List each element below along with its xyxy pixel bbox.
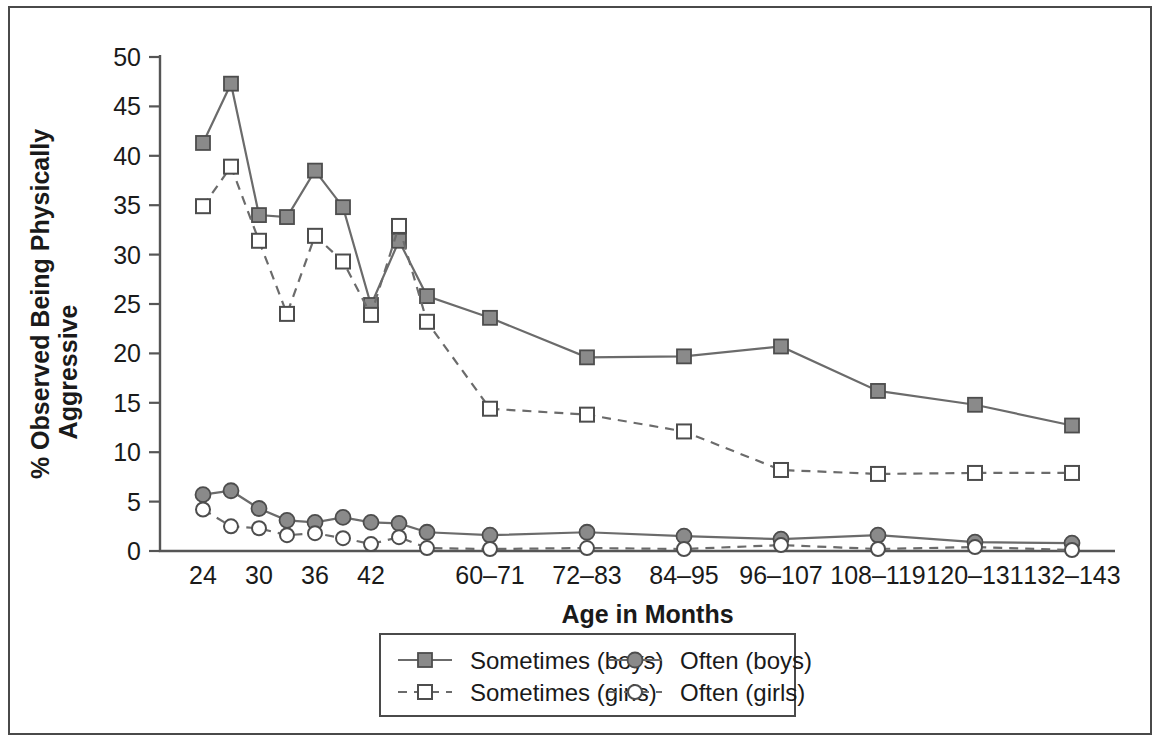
x-tick-label: 84–95: [649, 561, 719, 589]
y-tick-label: 0: [127, 537, 141, 565]
data-point-marker: [1065, 466, 1079, 480]
data-point-marker: [420, 541, 434, 555]
data-point-marker: [252, 501, 267, 516]
series-often-boys: [196, 483, 1080, 550]
data-point-marker: [418, 685, 432, 699]
y-tick-label: 45: [113, 92, 141, 120]
series-line: [203, 167, 1072, 474]
series-line: [203, 84, 1072, 426]
x-tick-label: 60–71: [455, 561, 525, 589]
data-point-marker: [392, 516, 407, 531]
series-line: [203, 491, 1072, 543]
data-point-marker: [308, 164, 322, 178]
data-point-marker: [392, 530, 406, 544]
data-point-marker: [871, 542, 885, 556]
y-tick-label: 15: [113, 389, 141, 417]
data-point-marker: [420, 289, 434, 303]
data-point-marker: [580, 350, 594, 364]
data-point-marker: [252, 521, 266, 535]
x-tick-label: 96–107: [739, 561, 822, 589]
x-tick-label: 132–143: [1023, 561, 1120, 589]
data-point-marker: [224, 483, 239, 498]
series-often-girls: [196, 503, 1079, 558]
data-point-marker: [280, 528, 294, 542]
data-point-marker: [871, 467, 885, 481]
data-point-marker: [871, 528, 886, 543]
series-sometimes-boys: [196, 77, 1079, 433]
data-point-marker: [364, 308, 378, 322]
data-point-marker: [336, 255, 350, 269]
y-tick-label: 10: [113, 438, 141, 466]
data-point-marker: [308, 526, 322, 540]
data-point-marker: [628, 653, 643, 668]
data-point-marker: [196, 503, 210, 517]
y-axis-title-line2: Aggressive: [54, 305, 82, 440]
y-tick-label: 35: [113, 191, 141, 219]
data-point-marker: [871, 384, 885, 398]
data-point-marker: [308, 229, 322, 243]
y-tick-label: 20: [113, 339, 141, 367]
x-tick-label: 24: [189, 561, 217, 589]
data-point-marker: [418, 653, 432, 667]
data-point-marker: [336, 510, 351, 525]
data-point-marker: [483, 311, 497, 325]
data-point-marker: [483, 528, 498, 543]
data-point-marker: [677, 424, 691, 438]
data-point-marker: [677, 542, 691, 556]
data-point-marker: [628, 685, 642, 699]
x-axis-title: Age in Months: [561, 600, 733, 628]
x-tick-label: 108–119: [830, 561, 925, 589]
x-tick-label: 72–83: [552, 561, 622, 589]
data-point-marker: [336, 531, 350, 545]
data-point-marker: [196, 136, 210, 150]
data-point-marker: [196, 199, 210, 213]
chart-canvas: 05101520253035404550 2430364260–7172–838…: [0, 0, 1160, 745]
data-point-marker: [280, 513, 295, 528]
legend-label: Often (girls): [680, 679, 805, 706]
legend-label: Often (boys): [680, 647, 812, 674]
data-point-marker: [196, 487, 211, 502]
plot-area: 05101520253035404550 2430364260–7172–838…: [0, 0, 1160, 745]
x-tick-label: 36: [301, 561, 329, 589]
data-point-marker: [420, 315, 434, 329]
y-tick-label: 30: [113, 241, 141, 269]
data-point-marker: [774, 538, 788, 552]
y-axis-ticks: 05101520253035404550: [113, 43, 160, 565]
y-tick-label: 5: [127, 488, 141, 516]
data-point-marker: [968, 466, 982, 480]
data-point-marker: [483, 542, 497, 556]
data-point-marker: [364, 515, 379, 530]
x-tick-label: 30: [245, 561, 273, 589]
data-point-marker: [1065, 419, 1079, 433]
data-point-marker: [420, 525, 435, 540]
series-sometimes-girls: [196, 160, 1079, 481]
data-point-marker: [580, 525, 595, 540]
data-point-marker: [392, 219, 406, 233]
data-point-marker: [336, 200, 350, 214]
data-point-marker: [252, 208, 266, 222]
data-point-marker: [224, 160, 238, 174]
data-point-marker: [774, 339, 788, 353]
chart-figure: 05101520253035404550 2430364260–7172–838…: [0, 0, 1160, 745]
data-point-marker: [280, 210, 294, 224]
y-tick-label: 40: [113, 142, 141, 170]
data-point-marker: [224, 519, 238, 533]
data-series: [196, 77, 1080, 557]
data-point-marker: [364, 537, 378, 551]
data-point-marker: [677, 349, 691, 363]
data-point-marker: [580, 408, 594, 422]
y-axis-title-line1: % Observed Being Physically: [26, 129, 54, 479]
data-point-marker: [224, 77, 238, 91]
data-point-marker: [774, 463, 788, 477]
data-point-marker: [580, 541, 594, 555]
data-point-marker: [968, 398, 982, 412]
x-tick-label: 42: [357, 561, 385, 589]
data-point-marker: [968, 540, 982, 554]
data-point-marker: [483, 402, 497, 416]
data-point-marker: [1065, 543, 1079, 557]
series-line: [203, 510, 1072, 551]
x-axis-ticks: 2430364260–7172–8384–9596–107108–119120–…: [189, 561, 1121, 589]
x-tick-label: 120–131: [926, 561, 1023, 589]
y-tick-label: 50: [113, 43, 141, 71]
y-tick-label: 25: [113, 290, 141, 318]
